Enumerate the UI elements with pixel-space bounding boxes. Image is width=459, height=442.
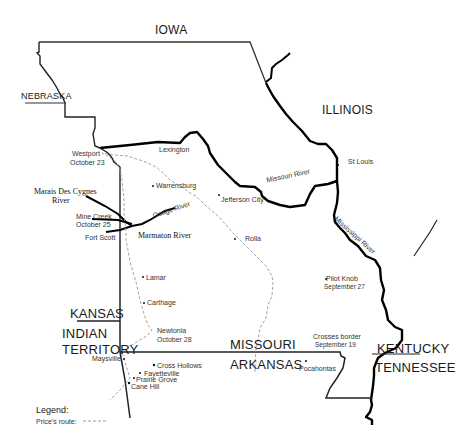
legend-route-label: Price's route: <box>36 418 77 425</box>
mississippi-upper <box>266 83 337 181</box>
place-maysville: Maysville <box>92 355 121 362</box>
state-label-missouri: MISSOURI <box>230 338 296 351</box>
place-westport-date: October 23 <box>70 159 105 166</box>
state-label-kansas: KANSAS <box>70 307 124 320</box>
place-carthage: Carthage <box>147 299 176 306</box>
place-st-louis: St Louis <box>348 158 373 165</box>
place-warrensburg: Warrensburg <box>156 182 196 189</box>
place-rolla: Rolla <box>245 235 261 242</box>
oklahoma-arkansas-border <box>120 352 130 418</box>
place-lamar: Lamar <box>146 274 166 281</box>
place-fort-scott: Fort Scott <box>85 234 115 241</box>
place-newtonia: Newtonia <box>157 327 186 334</box>
state-label-illinois: ILLINOIS <box>322 104 373 116</box>
place-prairie-grove: Prairie Grove <box>136 376 177 383</box>
place-crosses-border: Crosses border <box>313 333 361 340</box>
state-label-arkansas: ARKANSAS <box>230 358 302 371</box>
legend-title: Legend: <box>36 406 69 415</box>
map-canvas <box>0 0 459 442</box>
ohio-river <box>414 220 437 256</box>
state-label-tennessee: TENNESSEE <box>375 361 456 374</box>
place-mine-creek-date: October 25 <box>76 221 111 228</box>
place-cane-hill: Cane Hill <box>131 383 159 390</box>
place-lexington: Lexington <box>159 146 189 153</box>
illinois-river <box>266 53 290 82</box>
place-pilot-knob: Pilot Knob <box>326 275 358 282</box>
place-pocahontas: Pocahontas <box>299 365 336 372</box>
iowa-border <box>39 42 266 83</box>
state-label-kentucky: KENTUCKY <box>377 342 449 355</box>
place-pilot-knob-date: September 27 <box>324 284 365 291</box>
place-mine-creek: Mine Creek <box>76 213 112 220</box>
state-label-nebraska: NEBRASKA <box>21 92 72 101</box>
place-crosses-border-date: September 19 <box>315 342 356 349</box>
place-newtonia-date: October 28 <box>157 336 192 343</box>
river-label-marmaton: Marmaton River <box>138 232 191 240</box>
state-label-indian: INDIAN <box>62 327 107 340</box>
river-label-marais-des-cygnes: Marais Des Cygnes <box>34 188 97 196</box>
state-label-iowa: IOWA <box>155 24 187 36</box>
river-label-marais-river: River <box>52 197 70 205</box>
place-westport: Westport <box>72 150 100 157</box>
place-cross-hollows: Cross Hollows <box>157 362 202 369</box>
place-jefferson-city: Jefferson City <box>221 196 264 203</box>
